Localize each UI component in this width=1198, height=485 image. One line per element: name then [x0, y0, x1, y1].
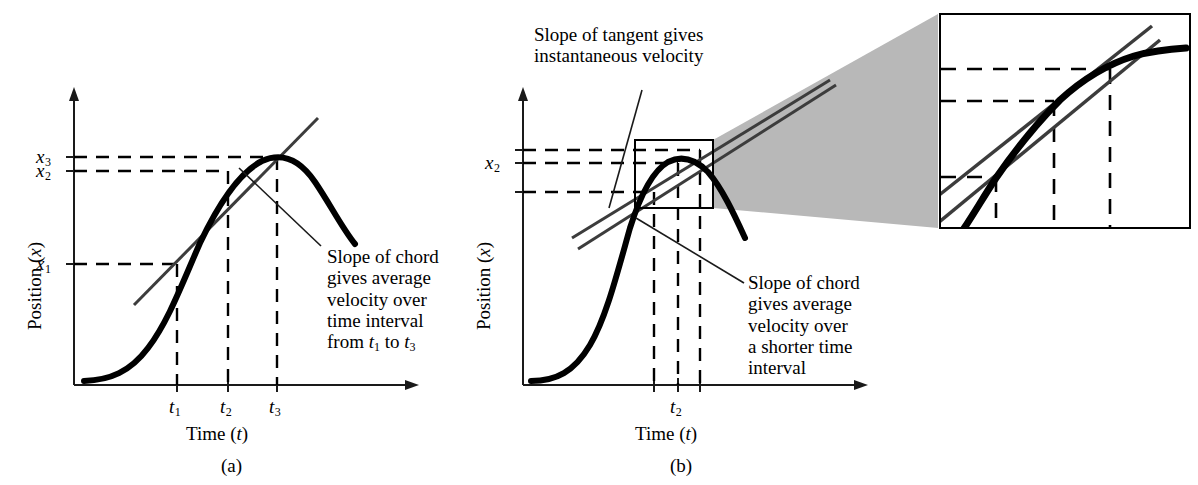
- panel-b-y-axis-title: Position (x): [473, 242, 494, 330]
- panel-a-chord-annotation-line-5: from t1 to t3: [327, 331, 439, 355]
- magnification-cone: [713, 14, 938, 228]
- panel-b-chord-annotation-line-3: velocity over: [748, 315, 860, 336]
- panel-a-y-axis-arrowhead: [69, 87, 79, 101]
- panel-b-chord-annotation-line-1: Slope of chord: [748, 272, 860, 293]
- panel-a-x-label-t2: t2: [220, 396, 232, 420]
- panel-a-x-label-t1: t1: [169, 396, 181, 420]
- panel-b-chord-annotation-line-4: a shorter time: [748, 336, 860, 357]
- panel-b-chord-annotation: Slope of chord gives average velocity ov…: [748, 272, 860, 378]
- panel-b-x-axis-title: Time (t): [635, 423, 697, 444]
- panel-a-chord-annotation-line-2: gives average: [327, 267, 439, 288]
- panel-a-letter: (a): [221, 455, 242, 476]
- panel-a-chord-line: [134, 118, 318, 305]
- panel-b-tangent-annotation-line-1: Slope of tangent gives: [534, 24, 703, 45]
- panel-b-y-axis-arrowhead: [518, 87, 528, 101]
- panel-b-chord-annotation-leader: [636, 218, 744, 283]
- panel-a-chord-annotation-line-1: Slope of chord: [327, 246, 439, 267]
- physics-figure-position-time: Position (x) x3 x2 x1 t1 t2 t3 Time (t) …: [0, 0, 1198, 485]
- panel-a-chord-annotation-line-4: time interval: [327, 310, 439, 331]
- panel-b-chord-annotation-line-5: interval: [748, 357, 860, 378]
- inset-graphics: [938, 14, 1190, 245]
- panel-b-y-label-x2: x2: [485, 152, 500, 176]
- panel-a-y-label-x1: x1: [36, 253, 51, 277]
- panel-b-letter: (b): [670, 455, 692, 476]
- panel-b-tangent-annotation: Slope of tangent gives instantaneous vel…: [534, 24, 703, 67]
- panel-a-chord-annotation: Slope of chord gives average velocity ov…: [327, 246, 439, 355]
- panel-a-annotation-leader: [239, 168, 321, 246]
- panel-b-tangent-annotation-line-2: instantaneous velocity: [534, 45, 703, 66]
- panel-a-x-label-t3: t3: [269, 396, 281, 420]
- panel-a-x-axis-arrowhead: [405, 380, 419, 390]
- panel-b-chord-annotation-line-2: gives average: [748, 293, 860, 314]
- panel-a-position-curve: [84, 157, 355, 381]
- panel-b-x-axis-arrowhead: [854, 380, 868, 390]
- panel-a-chord-annotation-line-3: velocity over: [327, 289, 439, 310]
- panel-a-y-label-x2: x2: [36, 160, 51, 184]
- panel-a-x-axis-title: Time (t): [186, 423, 248, 444]
- panel-b-x-label-t2: t2: [670, 396, 682, 420]
